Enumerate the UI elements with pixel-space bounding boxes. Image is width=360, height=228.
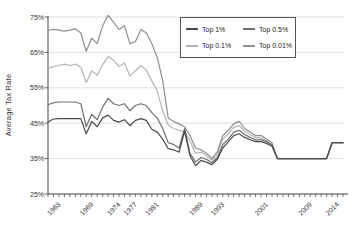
y-tick-label: 55% xyxy=(30,84,44,91)
x-tick-label: 2001 xyxy=(253,201,269,217)
legend-line-swatch xyxy=(186,45,198,47)
y-tick-label: 35% xyxy=(30,155,44,162)
y-tick-label: 45% xyxy=(30,120,44,127)
x-tick-label: 2014 xyxy=(324,201,340,217)
legend-item: Top 0.5% xyxy=(243,26,292,33)
x-tick-label: 2009 xyxy=(297,201,313,217)
legend-line-swatch xyxy=(243,28,255,30)
x-tick-label: 1993 xyxy=(210,201,226,217)
series-line-top-1- xyxy=(48,115,343,166)
chart-legend: Top 1%Top 0.5%Top 0.1%Top 0.01% xyxy=(180,17,296,58)
legend-line-swatch xyxy=(186,28,198,30)
y-tick-label: 75% xyxy=(30,14,44,21)
legend-item: Top 0.01% xyxy=(243,42,292,49)
legend-item: Top 0.1% xyxy=(186,42,243,49)
average-tax-rate-chart: Average Tax Rate 25%35%45%55%65%75%19631… xyxy=(0,0,360,228)
legend-label: Top 0.5% xyxy=(259,26,288,33)
legend-label: Top 0.01% xyxy=(259,42,292,49)
x-tick-label: 1963 xyxy=(46,201,62,217)
x-tick-label: 1969 xyxy=(78,201,94,217)
y-tick-label: 65% xyxy=(30,49,44,56)
legend-line-swatch xyxy=(243,45,255,47)
legend-label: Top 0.1% xyxy=(202,42,231,49)
y-tick-label: 25% xyxy=(30,191,44,198)
x-tick-label: 1989 xyxy=(188,201,204,217)
x-tick-label: 1977 xyxy=(122,201,138,217)
x-tick-label: 1981 xyxy=(144,201,160,217)
x-tick-label: 1974 xyxy=(106,201,122,217)
legend-label: Top 1% xyxy=(202,26,225,33)
legend-item: Top 1% xyxy=(186,26,243,33)
series-line-top-0-1- xyxy=(48,57,343,161)
